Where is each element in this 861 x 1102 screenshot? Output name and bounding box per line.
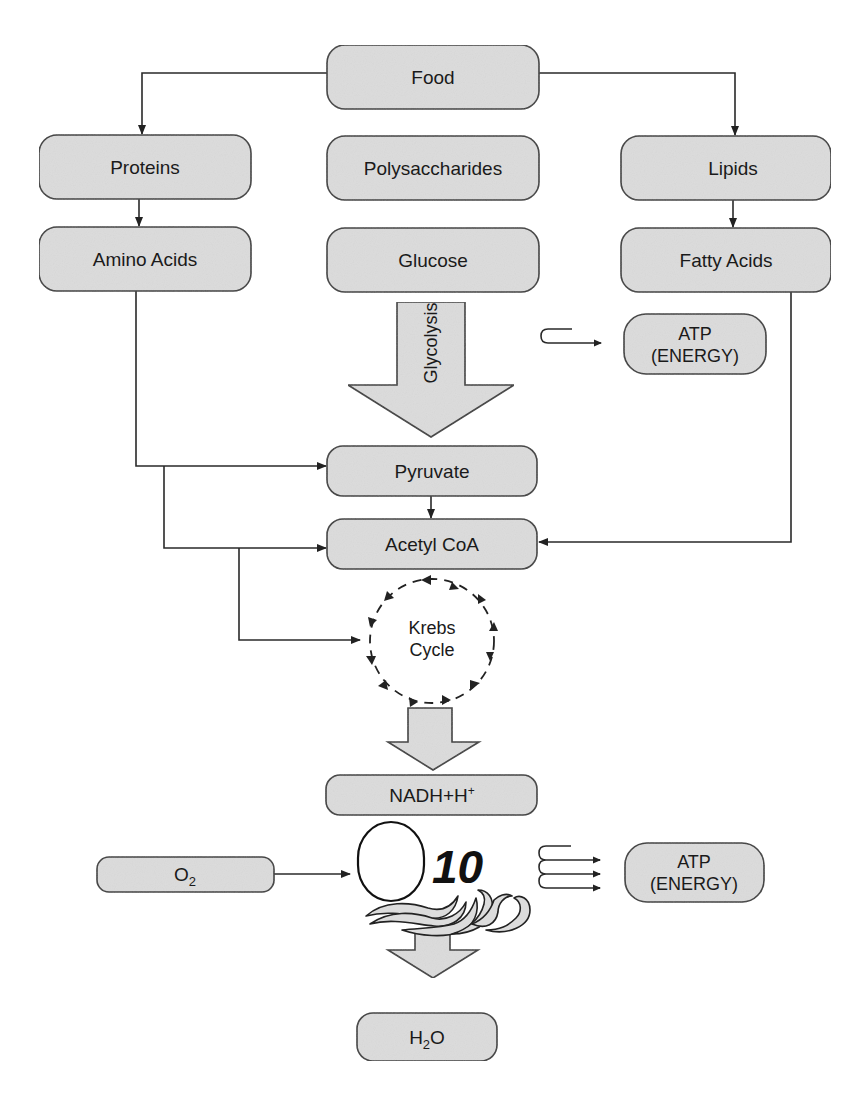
- electron-transport-chain: 10: [358, 822, 530, 936]
- node-glucose-label: Glucose: [398, 250, 468, 271]
- node-atp-2-label-line1: ATP: [677, 852, 711, 872]
- krebs-cycle: Krebs Cycle: [366, 575, 498, 707]
- etc-oval-icon: [358, 822, 424, 901]
- arrow-food-to-lipids: [539, 73, 735, 135]
- node-lipids-label: Lipids: [708, 158, 758, 179]
- arrow-amino-to-pyruvate: [136, 291, 326, 466]
- node-fatty-acids-label: Fatty Acids: [680, 250, 773, 271]
- node-food-label: Food: [411, 67, 454, 88]
- node-acetyl-coa-label: Acetyl CoA: [385, 534, 479, 555]
- node-atp-1-label-line1: ATP: [678, 324, 712, 344]
- node-pyruvate-label: Pyruvate: [395, 461, 470, 482]
- node-atp-2-label-line2: (ENERGY): [650, 874, 738, 894]
- node-atp-1-label-line2: (ENERGY): [651, 346, 739, 366]
- krebs-label-line1: Krebs: [408, 618, 455, 638]
- etc-number-label: 10: [432, 841, 484, 893]
- node-polysaccharides-label: Polysaccharides: [364, 158, 502, 179]
- hook-arrow-atp-1: [541, 329, 601, 343]
- node-nadh-label: NADH+H+: [389, 784, 475, 806]
- glycolysis-label: Glycolysis: [421, 302, 441, 383]
- node-amino-acids-label: Amino Acids: [93, 249, 198, 270]
- krebs-to-nadh-arrow: [388, 708, 479, 770]
- triple-hook-arrow-atp-2: [539, 846, 600, 888]
- arrow-food-to-proteins: [142, 73, 327, 134]
- krebs-label-line2: Cycle: [409, 640, 454, 660]
- metabolism-flowchart: Glycolysis Krebs Cycle 10: [0, 0, 861, 1102]
- etc-to-h2o-arrow: [388, 930, 478, 978]
- arrow-amino-to-acetyl: [164, 466, 326, 548]
- node-proteins-label: Proteins: [110, 157, 180, 178]
